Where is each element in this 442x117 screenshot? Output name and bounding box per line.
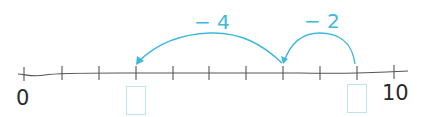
number-line-axis — [18, 71, 408, 76]
answer-box-1[interactable] — [126, 86, 146, 115]
end-label: 10 — [382, 83, 409, 104]
jump-label-minus-4: − 4 — [194, 12, 230, 32]
jump-label-minus-2: − 2 — [304, 11, 340, 31]
jump-arc-minus-2 — [284, 33, 355, 64]
number-line-diagram: 0 10 − 2 − 4 — [0, 0, 442, 117]
jump-arc-minus-4 — [138, 33, 282, 63]
answer-box-2[interactable] — [347, 84, 367, 113]
start-label: 0 — [16, 88, 29, 109]
